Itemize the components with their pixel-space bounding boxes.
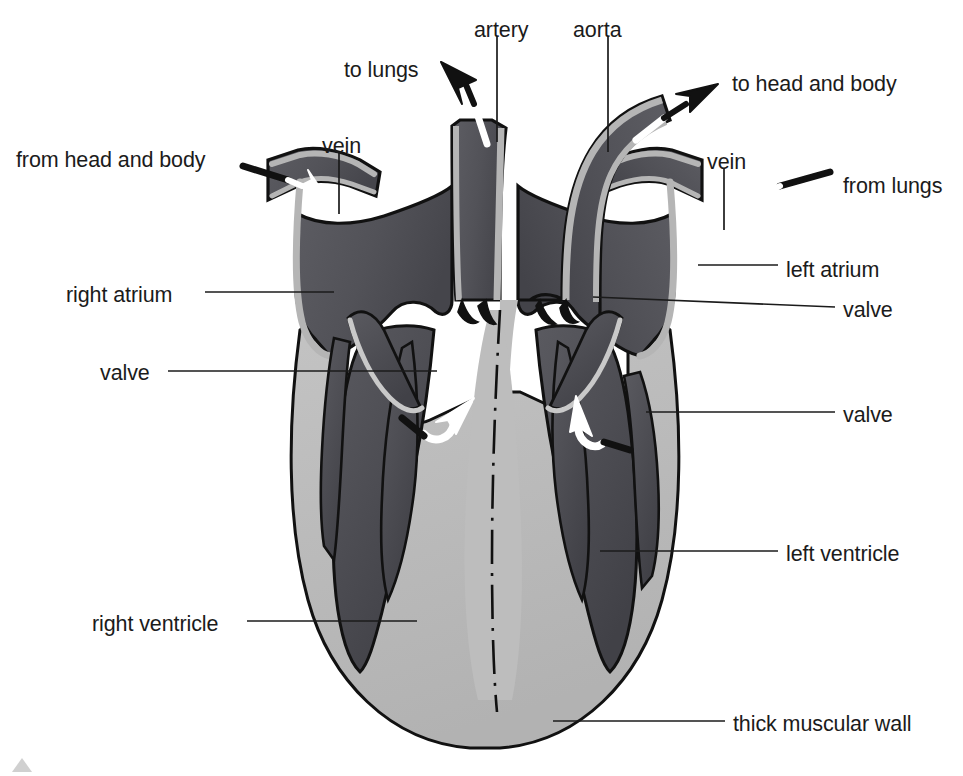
label-thick-muscular-wall: thick muscular wall [733, 714, 912, 736]
label-right-atrium: right atrium [66, 285, 172, 307]
label-from-lungs: from lungs [843, 176, 942, 198]
heart-diagram-canvas: to lungs artery aorta to head and body v… [0, 0, 963, 776]
label-valve-right-upper: valve [843, 300, 893, 322]
label-artery: artery [474, 20, 528, 42]
label-from-head-and-body: from head and body [16, 150, 205, 172]
heart-body-group [12, 36, 835, 772]
label-to-head-and-body: to head and body [732, 74, 897, 96]
label-right-ventricle: right ventricle [92, 614, 218, 636]
label-vein-right: vein [707, 152, 746, 174]
label-valve-left: valve [100, 363, 150, 385]
pulmonary-artery-lining-left [456, 126, 459, 300]
arrow-from-lungs [728, 172, 830, 214]
label-left-ventricle: left ventricle [786, 544, 899, 566]
label-valve-right-lower: valve [843, 405, 893, 427]
label-to-lungs: to lungs [344, 60, 419, 82]
heart-cross-section-illustration [0, 0, 963, 776]
pulmonary-artery-lining-right [497, 128, 501, 300]
scan-artifact [12, 758, 32, 772]
label-vein-left: vein [322, 136, 361, 158]
label-aorta: aorta [573, 20, 622, 42]
label-left-atrium: left atrium [786, 260, 879, 282]
